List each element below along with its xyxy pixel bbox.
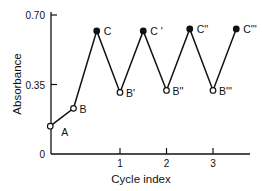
- point-label: B'': [173, 85, 184, 97]
- x-tick-label: 3: [210, 158, 216, 169]
- absorbance-chart: 00.350.70 123 Cycle index Absorbance ABC…: [0, 0, 262, 191]
- x-tick-label: 1: [117, 158, 123, 169]
- point-label: A: [61, 126, 68, 138]
- open-point-marker: [47, 123, 53, 129]
- point-label: B: [80, 103, 87, 115]
- open-point-marker: [164, 88, 170, 94]
- open-point-marker: [117, 90, 123, 96]
- x-tick-label: 2: [164, 158, 170, 169]
- open-point-marker: [71, 106, 77, 112]
- y-tick-label: 0: [39, 149, 45, 160]
- filled-point-marker: [140, 27, 147, 34]
- x-ticks: 123: [117, 148, 216, 169]
- data-series: ABCB'C 'B''C''B'''C''': [47, 23, 256, 138]
- y-tick-label: 0.35: [26, 80, 46, 91]
- filled-point-marker: [93, 27, 100, 34]
- filled-point-marker: [186, 26, 193, 33]
- filled-point-marker: [233, 26, 240, 33]
- y-ticks: 00.350.70: [26, 10, 57, 160]
- x-axis-label: Cycle index: [111, 173, 171, 185]
- point-label: C ': [150, 25, 163, 37]
- series-line: [50, 29, 236, 126]
- point-label: C: [104, 25, 112, 37]
- point-label: B''': [219, 85, 232, 97]
- point-label: C''': [243, 23, 257, 35]
- open-point-marker: [210, 88, 216, 94]
- y-axis-label: Absorbance: [11, 53, 23, 114]
- y-tick-label: 0.70: [26, 10, 46, 21]
- point-label: C'': [197, 23, 209, 35]
- point-label: B': [126, 87, 135, 99]
